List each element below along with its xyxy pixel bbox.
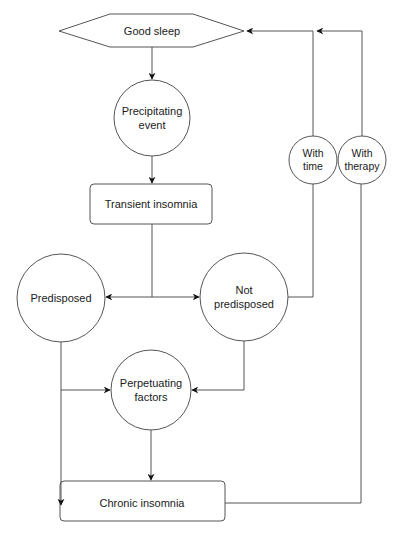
good-sleep-label: Good sleep <box>124 24 180 38</box>
precipitating-event-label: Precipitating event <box>122 104 183 132</box>
edge-notpred-perpetuating <box>192 341 244 390</box>
flowchart-canvas <box>0 0 400 540</box>
with-therapy-label: With therapy <box>344 147 379 173</box>
chronic-insomnia-label: Chronic insomnia <box>100 496 185 510</box>
edge-withtime-goodsleep <box>247 31 313 136</box>
with-therapy-line1: With <box>344 147 379 160</box>
perpetuating-line1: Perpetuating <box>120 376 182 390</box>
perpetuating-line2: factors <box>120 390 182 404</box>
perpetuating-factors-label: Perpetuating factors <box>120 376 182 404</box>
edge-notpred-withtime <box>288 184 313 297</box>
with-time-label: With time <box>303 147 324 173</box>
precipitating-line1: Precipitating <box>122 104 183 118</box>
predisposed-label: Predisposed <box>30 291 91 305</box>
with-therapy-line2: therapy <box>344 160 379 173</box>
edge-chronic-withtherapy <box>225 184 361 503</box>
with-time-line1: With <box>303 147 324 160</box>
not-predisposed-line2: predisposed <box>214 297 274 311</box>
not-predisposed-line1: Not <box>214 283 274 297</box>
with-time-line2: time <box>303 160 324 173</box>
precipitating-line2: event <box>122 118 183 132</box>
transient-insomnia-label: Transient insomnia <box>105 197 198 211</box>
not-predisposed-label: Not predisposed <box>214 283 274 311</box>
edge-withtherapy-goodsleep <box>317 31 362 136</box>
